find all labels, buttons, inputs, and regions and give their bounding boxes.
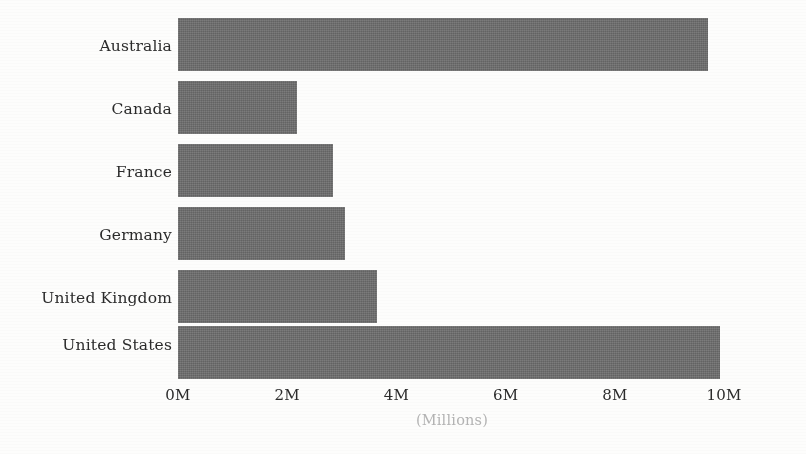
x-tick-label: 8M [602, 386, 627, 404]
x-axis-title-text: (Millions) [416, 412, 488, 428]
bar-row [178, 77, 724, 140]
bar-row [178, 322, 724, 385]
bar-row [178, 140, 724, 203]
bar [178, 81, 297, 134]
bar-row [178, 203, 724, 266]
x-tick-label: 2M [275, 386, 300, 404]
bar [178, 18, 708, 71]
bar [178, 326, 720, 379]
category-label: Germany [99, 226, 172, 244]
bar [178, 207, 345, 260]
x-tick-label: 0M [165, 386, 190, 404]
bar-chart: Australia Canada France Germany United K… [0, 0, 806, 454]
category-label: Australia [99, 37, 172, 55]
category-label-row: Germany [0, 203, 172, 266]
category-label: United Kingdom [41, 289, 172, 307]
category-label: Canada [112, 100, 172, 118]
x-tick-label: 4M [384, 386, 409, 404]
category-label-row: Australia [0, 14, 172, 77]
bar [178, 144, 333, 197]
category-label-row: United States [0, 313, 172, 376]
category-label: France [116, 163, 172, 181]
plot-area [178, 14, 724, 382]
bar [178, 270, 377, 323]
category-label: United States [62, 336, 172, 354]
x-tick-label: 10M [706, 386, 741, 404]
category-label-row: France [0, 140, 172, 203]
x-axis: 0M 2M 4M 6M 8M 10M [178, 386, 724, 410]
bar-row [178, 266, 724, 329]
x-tick-label: 6M [493, 386, 518, 404]
category-label-row: Canada [0, 77, 172, 140]
x-axis-title: (Millions) [0, 412, 806, 428]
bar-row [178, 14, 724, 77]
